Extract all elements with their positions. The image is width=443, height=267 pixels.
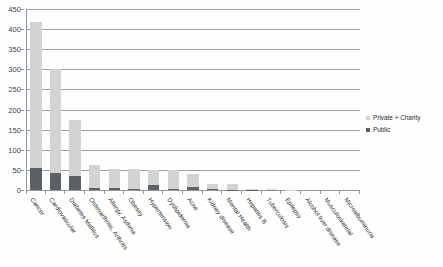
bar-segment-private-charity: [187, 174, 198, 186]
bar-slot: [301, 9, 321, 190]
bar-stack[interactable]: [168, 170, 179, 191]
x-label-cell: Musculoskeletal: [321, 194, 341, 267]
bar-segment-private-charity: [69, 120, 80, 176]
bar-slot: [85, 9, 105, 190]
bar-slot: [321, 9, 341, 190]
y-axis-tick-labels: 050100150200250300350400450: [0, 9, 24, 190]
bar-stack[interactable]: [109, 169, 120, 190]
y-tick-label-400: 400: [8, 25, 21, 34]
bar-slot: [222, 9, 242, 190]
bar-segment-private-charity: [168, 170, 179, 189]
y-tick-mark-400: [21, 29, 24, 30]
bar-slot: [124, 9, 144, 190]
x-axis-label: Acne: [186, 196, 200, 212]
x-axis-label: Cancer: [29, 196, 46, 217]
y-tick-mark-50: [21, 170, 24, 171]
x-label-cell: Hypertension: [144, 194, 164, 267]
x-label-cell: Allergy, Asthma: [105, 194, 125, 267]
y-tick-label-350: 350: [8, 45, 21, 54]
y-tick-label-50: 50: [12, 165, 21, 174]
x-label-cell: Obesity: [124, 194, 144, 267]
x-label-cell: Mental Health: [222, 194, 242, 267]
y-tick-label-250: 250: [8, 85, 21, 94]
bar-segment-private-charity: [50, 69, 61, 173]
bar-segment-public: [50, 173, 61, 190]
bar-slot: [183, 9, 203, 190]
bar-slot: [242, 9, 262, 190]
legend-item[interactable]: Private + Charity: [366, 114, 443, 121]
bar-slot: [340, 9, 360, 190]
x-label-cell: Hepatitis B: [242, 194, 262, 267]
y-tick-mark-350: [21, 49, 24, 50]
x-label-cell: Epilepsy: [281, 194, 301, 267]
bar-slot: [65, 9, 85, 190]
y-tick-label-200: 200: [8, 105, 21, 114]
plot-area: [26, 9, 360, 190]
x-label-cell: Dyslipidemia: [163, 194, 183, 267]
bar-stack[interactable]: [50, 69, 61, 190]
bar-segment-private-charity: [128, 169, 139, 189]
y-tick-label-150: 150: [8, 125, 21, 134]
bar-stack[interactable]: [148, 170, 159, 190]
x-label-cell: Kidney disease: [203, 194, 223, 267]
legend-label: Private + Charity: [373, 114, 420, 121]
bar-series-container: [26, 9, 360, 190]
y-tick-mark-100: [21, 150, 24, 151]
bar-stack[interactable]: [89, 165, 100, 190]
bar-slot: [144, 9, 164, 190]
chart-legend: Private + CharityPublic: [366, 114, 443, 138]
y-tick-mark-450: [21, 9, 24, 10]
bar-stack[interactable]: [30, 22, 41, 190]
bar-stack[interactable]: [187, 174, 198, 190]
x-label-cell: Alcohol liver disease: [301, 194, 321, 267]
y-tick-mark-250: [21, 89, 24, 90]
bar-segment-public: [69, 176, 80, 190]
x-label-cell: Cancer: [26, 194, 46, 267]
legend-label: Public: [373, 126, 390, 133]
bar-slot: [26, 9, 46, 190]
bar-segment-public: [30, 168, 41, 190]
y-tick-mark-0: [21, 190, 24, 191]
bar-slot: [262, 9, 282, 190]
legend-color-swatch: [366, 116, 370, 120]
y-tick-label-100: 100: [8, 145, 21, 154]
y-tick-label-450: 450: [8, 5, 21, 14]
x-label-cell: Diabetes Mellitus: [65, 194, 85, 267]
bar-stack[interactable]: [69, 120, 80, 190]
bar-segment-private-charity: [89, 165, 100, 188]
bar-slot: [163, 9, 183, 190]
x-axis-label: Microalbuminuria: [343, 196, 376, 239]
bar-slot: [105, 9, 125, 190]
bar-slot: [203, 9, 223, 190]
x-axis-label: Obesity: [127, 196, 145, 217]
bar-slot: [281, 9, 301, 190]
y-tick-label-300: 300: [8, 65, 21, 74]
x-label-cell: Osteoarthritis, Arthritis: [85, 194, 105, 267]
y-tick-mark-200: [21, 110, 24, 111]
x-label-cell: Tuberculosis: [262, 194, 282, 267]
x-axis-category-labels: CancerCardiovascularDiabetes MellitusOst…: [26, 194, 360, 267]
bar-segment-private-charity: [148, 170, 159, 185]
y-tick-mark-300: [21, 69, 24, 70]
legend-color-swatch: [366, 128, 370, 132]
stacked-bar-chart: 050100150200250300350400450 CancerCardio…: [0, 0, 443, 267]
x-label-cell: Cardiovascular: [46, 194, 66, 267]
x-label-cell: Microalbuminuria: [340, 194, 360, 267]
legend-item[interactable]: Public: [366, 126, 443, 133]
bar-segment-private-charity: [30, 22, 41, 168]
bar-slot: [46, 9, 66, 190]
x-label-cell: Acne: [183, 194, 203, 267]
bar-stack[interactable]: [128, 169, 139, 190]
bar-segment-private-charity: [109, 169, 120, 188]
y-tick-mark-150: [21, 130, 24, 131]
